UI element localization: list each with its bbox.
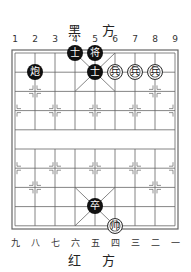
black-cannon-piece[interactable]: 炮 [27, 64, 43, 80]
file-label: 一 [168, 236, 182, 249]
red-soldier-piece[interactable]: 兵 [147, 64, 163, 80]
piece-char: 士 [90, 67, 100, 77]
file-label: 二 [148, 236, 162, 249]
black-advisor-piece[interactable]: 士 [87, 64, 103, 80]
black-soldier-piece[interactable]: 卒 [87, 198, 103, 214]
file-label: 五 [88, 236, 102, 249]
black-advisor-piece[interactable]: 士 [67, 45, 83, 61]
red-side-label: 红 方 [0, 250, 191, 269]
piece-char: 将 [90, 48, 100, 58]
file-label: 四 [108, 236, 122, 249]
black-general-piece[interactable]: 将 [87, 45, 103, 61]
piece-char: 帅 [110, 221, 120, 231]
file-label: 八 [28, 236, 42, 249]
piece-char: 炮 [30, 67, 40, 77]
red-soldier-piece[interactable]: 兵 [127, 64, 143, 80]
file-label: 六 [68, 236, 82, 249]
piece-char: 兵 [130, 67, 140, 77]
piece-char: 兵 [110, 67, 120, 77]
piece-char: 兵 [150, 67, 160, 77]
file-label: 三 [128, 236, 142, 249]
bottom-file-labels: 九 八 七 六 五 四 三 二 一 [0, 236, 191, 248]
xiangqi-board-grid [0, 0, 191, 272]
file-label: 七 [48, 236, 62, 249]
file-label: 九 [8, 236, 22, 249]
piece-char: 卒 [90, 201, 100, 211]
red-general-piece[interactable]: 帅 [107, 218, 123, 234]
red-soldier-piece[interactable]: 兵 [107, 64, 123, 80]
piece-char: 士 [70, 48, 80, 58]
